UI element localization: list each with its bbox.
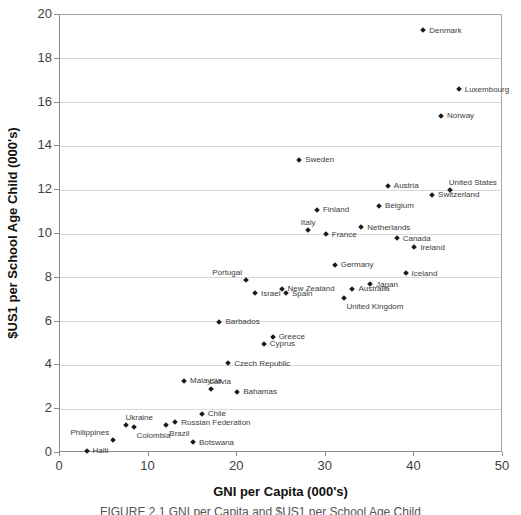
- y-axis-tick-mark: [54, 277, 59, 278]
- data-point-marker: [412, 244, 418, 250]
- x-axis-tick-mark: [59, 452, 60, 456]
- x-axis-tick-label: 30: [318, 458, 332, 473]
- data-point-label: Haiti: [93, 446, 109, 455]
- y-axis-tick-label: 14: [0, 137, 52, 152]
- data-point-label: United States: [449, 178, 497, 187]
- data-point-label: Bahamas: [243, 387, 277, 396]
- scatter-chart: DenmarkLuxembourgNorwaySwedenAustriaUnit…: [0, 0, 521, 515]
- x-axis-tick-mark: [148, 452, 149, 456]
- data-point-marker: [332, 262, 338, 268]
- x-axis-tick-label: 0: [55, 458, 62, 473]
- y-axis-tick-label: 12: [0, 181, 52, 196]
- y-axis-tick-mark: [54, 102, 59, 103]
- gridline: [60, 190, 501, 191]
- data-point-marker: [394, 236, 400, 242]
- data-point-label: Netherlands: [367, 223, 410, 232]
- data-point-label: Portugal: [212, 268, 242, 277]
- data-point-marker: [163, 422, 169, 428]
- data-point-marker: [84, 448, 90, 454]
- data-point-marker: [181, 378, 187, 384]
- data-point-label: Austria: [394, 181, 419, 190]
- x-axis-title: GNI per Capita (000's): [59, 484, 502, 499]
- data-point-label: France: [332, 230, 357, 239]
- data-point-marker: [261, 341, 267, 347]
- data-point-marker: [456, 87, 462, 93]
- gridline: [60, 102, 501, 103]
- data-point-label: Switzerland: [438, 190, 479, 199]
- y-axis-tick-mark: [54, 189, 59, 190]
- data-point-label: Latvia: [210, 377, 231, 386]
- y-axis-tick-mark: [54, 14, 59, 15]
- y-axis-tick-label: 10: [0, 225, 52, 240]
- data-point-marker: [190, 439, 196, 445]
- gridline: [60, 321, 501, 322]
- data-point-label: Russian Federation: [181, 418, 250, 427]
- y-axis-tick-label: 16: [0, 94, 52, 109]
- data-point-label: Germany: [341, 260, 374, 269]
- data-point-marker: [376, 203, 382, 209]
- data-point-marker: [283, 290, 289, 296]
- data-point-marker: [358, 225, 364, 231]
- data-point-marker: [438, 113, 444, 119]
- data-point-marker: [420, 27, 426, 33]
- y-axis-tick-mark: [54, 408, 59, 409]
- data-point-marker: [296, 157, 302, 163]
- data-point-marker: [323, 231, 329, 237]
- data-point-label: Barbados: [225, 317, 259, 326]
- data-point-label: Iceland: [412, 269, 438, 278]
- data-point-marker: [208, 387, 214, 393]
- data-point-marker: [172, 419, 178, 425]
- data-point-label: Sweden: [305, 155, 334, 164]
- data-point-label: Spain: [292, 289, 312, 298]
- x-axis-tick-mark: [502, 452, 503, 456]
- x-axis-tick-mark: [325, 452, 326, 456]
- data-point-marker: [350, 286, 356, 292]
- data-point-label: Australia: [358, 284, 389, 293]
- data-point-label: Belgium: [385, 201, 414, 210]
- y-axis-tick-mark: [54, 233, 59, 234]
- data-point-label: Finland: [323, 205, 349, 214]
- gridline: [60, 234, 501, 235]
- data-point-label: Brazil: [169, 429, 189, 438]
- data-point-marker: [234, 389, 240, 395]
- data-point-marker: [385, 183, 391, 189]
- y-axis-tick-mark: [54, 58, 59, 59]
- data-point-marker: [403, 271, 409, 277]
- data-point-marker: [314, 207, 320, 213]
- data-point-label: Chile: [208, 409, 226, 418]
- data-point-label: Cyprus: [270, 339, 295, 348]
- data-point-label: Philippines: [70, 428, 109, 437]
- data-point-label: Ireland: [420, 243, 444, 252]
- data-point-label: Ukraine: [125, 413, 153, 422]
- gridline: [60, 409, 501, 410]
- x-axis-tick-label: 20: [229, 458, 243, 473]
- y-axis-tick-mark: [54, 145, 59, 146]
- y-axis-tick-label: 20: [0, 6, 52, 21]
- data-point-label: United Kingdom: [347, 302, 404, 311]
- data-point-label: Italy: [301, 218, 316, 227]
- y-axis-tick-label: 0: [0, 444, 52, 459]
- y-axis-tick-mark: [54, 321, 59, 322]
- y-axis-tick-mark: [54, 364, 59, 365]
- y-axis-tick-label: 6: [0, 313, 52, 328]
- data-point-marker: [429, 192, 435, 198]
- data-point-label: Botswana: [199, 438, 234, 447]
- gridline: [60, 58, 501, 59]
- data-point-label: Israel: [261, 289, 281, 298]
- data-point-marker: [252, 290, 258, 296]
- y-axis-tick-label: 8: [0, 269, 52, 284]
- data-point-marker: [217, 319, 223, 325]
- data-point-label: Czech Republic: [234, 359, 290, 368]
- gridline: [60, 146, 501, 147]
- y-axis-tick-label: 2: [0, 400, 52, 415]
- x-axis-tick-mark: [413, 452, 414, 456]
- x-axis-tick-label: 40: [406, 458, 420, 473]
- data-point-marker: [305, 227, 311, 233]
- x-axis-tick-label: 50: [495, 458, 509, 473]
- y-axis-tick-label: 4: [0, 356, 52, 371]
- figure-caption: FIGURE 2.1 GNI per Capita and $US1 per S…: [0, 505, 521, 515]
- data-point-marker: [131, 424, 137, 430]
- data-point-marker: [341, 295, 347, 301]
- data-point-marker: [110, 437, 116, 443]
- data-point-label: Canada: [403, 234, 431, 243]
